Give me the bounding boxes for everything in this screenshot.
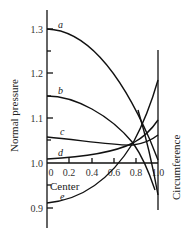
x-tick-label: 0 bbox=[49, 167, 54, 178]
chart: 1.3 1.2 1.1 1.0 0.9 0 0.2 0.4 0.6 0.8 1.… bbox=[0, 0, 189, 234]
circumference-label: Circumference bbox=[170, 135, 182, 200]
y-tick-label: 1.3 bbox=[31, 24, 44, 35]
y-tick-label: 0.9 bbox=[31, 203, 44, 214]
y-tick-label: 1.0 bbox=[31, 158, 44, 169]
x-axis-title: Center bbox=[50, 180, 80, 192]
y-tick-label: 1.1 bbox=[31, 113, 44, 124]
curve-label-a: a bbox=[58, 19, 63, 30]
x-tick-label: 0.4 bbox=[86, 167, 99, 178]
y-tick-label: 1.2 bbox=[31, 68, 44, 79]
x-tick-label: 0.2 bbox=[63, 167, 76, 178]
x-tick-label: 0.8 bbox=[130, 167, 143, 178]
curve-a bbox=[47, 29, 158, 160]
x-ticks bbox=[69, 158, 136, 163]
curve-label-e: e bbox=[60, 191, 65, 202]
curve-label-d: d bbox=[58, 147, 64, 158]
y-axis-title: Normal pressure bbox=[8, 79, 20, 152]
curve-label-b: b bbox=[58, 85, 63, 96]
curve-label-c: c bbox=[60, 126, 65, 137]
